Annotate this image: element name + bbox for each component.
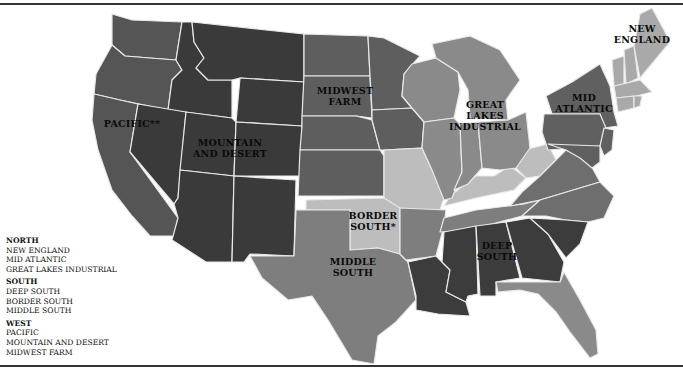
label-great-lakes-line3: INDUSTRIAL [449, 121, 521, 132]
label-great-lakes-line1: GREAT [466, 99, 504, 110]
state-north-dakota [304, 34, 370, 76]
legend-item: MIDWEST FARM [6, 348, 117, 358]
label-middle-south-line2: SOUTH [333, 267, 373, 278]
state-arkansas [400, 208, 446, 260]
label-new-england-line2: ENGLAND [614, 34, 670, 45]
state-new-mexico [232, 176, 296, 262]
legend-group-south: SOUTH DEEP SOUTH BORDER SOUTH MIDDLE SOU… [6, 277, 117, 315]
legend-item: GREAT LAKES INDUSTRIAL [6, 265, 117, 275]
legend-item: MIDDLE SOUTH [6, 306, 117, 316]
state-connecticut [616, 96, 634, 112]
legend-item: MOUNTAIN AND DESERT [6, 338, 117, 348]
label-mid-atlantic-line1: MID [572, 92, 596, 103]
legend-header-north: NORTH [6, 236, 117, 246]
legend-item: MID ATLANTIC [6, 255, 117, 265]
bottom-rule [0, 365, 683, 367]
state-arizona [172, 170, 234, 262]
label-middle-south-line1: MIDDLE [330, 256, 377, 267]
label-midwest-line2: FARM [329, 96, 362, 107]
state-iowa [372, 108, 424, 150]
label-midwest-line1: MIDWEST [317, 85, 373, 96]
label-deep-south-line1: DEEP [482, 240, 513, 251]
region-mid-atlantic [542, 64, 618, 168]
state-vermont [612, 56, 624, 86]
label-mountain-line2: AND DESERT [192, 148, 267, 159]
legend-group-west: WEST PACIFIC MOUNTAIN AND DESERT MIDWEST… [6, 319, 117, 357]
region-legend: NORTH NEW ENGLAND MID ATLANTIC GREAT LAK… [6, 236, 117, 360]
state-rhode-island [634, 96, 642, 108]
state-florida [496, 272, 598, 358]
state-wyoming [236, 78, 304, 126]
legend-group-north: NORTH NEW ENGLAND MID ATLANTIC GREAT LAK… [6, 236, 117, 274]
state-kansas [298, 150, 384, 196]
label-pacific: PACIFIC** [104, 118, 160, 129]
label-great-lakes-line2: LAKES [466, 110, 503, 121]
label-border-south-line2: SOUTH* [350, 221, 396, 232]
label-deep-south-line2: SOUTH [477, 251, 517, 262]
legend-header-west: WEST [6, 319, 117, 329]
label-mid-atlantic-line2: ATLANTIC [554, 103, 613, 114]
state-nebraska [300, 116, 380, 150]
label-new-england-line1: NEW [628, 23, 655, 34]
label-border-south-line1: BORDER [349, 210, 398, 221]
legend-header-south: SOUTH [6, 277, 117, 287]
legend-item: NEW ENGLAND [6, 246, 117, 256]
state-mississippi [442, 226, 478, 302]
legend-item: PACIFIC [6, 328, 117, 338]
label-mountain-line1: MOUNTAIN [198, 137, 263, 148]
legend-item: DEEP SOUTH [6, 287, 117, 297]
state-montana [192, 22, 304, 82]
legend-item: BORDER SOUTH [6, 297, 117, 307]
region-florida [496, 272, 598, 358]
